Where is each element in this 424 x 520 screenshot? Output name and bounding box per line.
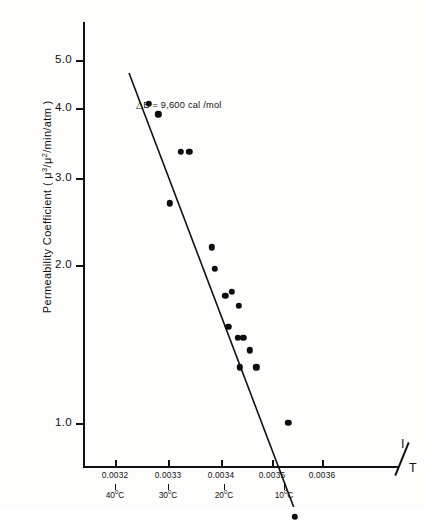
data-point (237, 364, 243, 370)
data-point (253, 364, 259, 370)
data-point (167, 200, 173, 206)
x-axis-title: I T (400, 437, 424, 481)
y-tick-label-5: 5.0 (32, 53, 72, 65)
temp-label-40c: 400C (92, 489, 138, 500)
y-tick-label-3: 3.0 (32, 171, 72, 183)
x-tick-0034 (221, 460, 223, 468)
x-axis-line (84, 466, 399, 468)
data-point (155, 111, 161, 117)
data-point (178, 148, 184, 154)
y-tick-3 (76, 178, 85, 180)
data-point (228, 288, 234, 294)
data-point (225, 324, 231, 330)
y-unit-min: min (41, 131, 53, 150)
y-tick-label-1: 1.0 (32, 416, 72, 428)
data-point (212, 266, 218, 272)
data-point (285, 420, 291, 426)
x-tick-label-0033: 0.0033 (145, 470, 191, 480)
x-tick-label-0036: 0.0036 (299, 470, 345, 480)
x-tick-0036 (322, 460, 324, 468)
data-point (222, 292, 228, 298)
data-point (240, 334, 246, 340)
y-tick-1 (76, 423, 85, 425)
x-tick-label-0032: 0.0032 (92, 470, 138, 480)
x-tick-label-0034: 0.0034 (198, 470, 244, 480)
y-tick-4 (76, 108, 85, 110)
y-tick-5 (76, 60, 85, 62)
y-tick-label-4: 4.0 (32, 101, 72, 113)
x-axis-title-denominator: T (409, 461, 417, 475)
data-point (246, 347, 252, 353)
data-point (186, 148, 192, 154)
temp-label-10c: 100C (261, 489, 307, 500)
y-axis-line (83, 22, 85, 468)
x-tick-0035 (272, 460, 274, 468)
data-point (208, 244, 214, 250)
y-tick-2 (76, 265, 85, 267)
x-tick-label-0035: 0.0035 (249, 470, 295, 480)
y-axis-title-text: Permeability Coefficient ( (41, 182, 53, 313)
y-unit-mu-squared: μ2 (41, 153, 53, 164)
temp-label-20c: 200C (201, 489, 247, 500)
data-point (292, 513, 298, 519)
data-point (236, 303, 242, 309)
x-tick-0032 (115, 460, 117, 468)
x-tick-0033 (168, 460, 170, 468)
temp-label-30c: 300C (145, 489, 191, 500)
y-tick-label-2: 2.0 (32, 258, 72, 270)
